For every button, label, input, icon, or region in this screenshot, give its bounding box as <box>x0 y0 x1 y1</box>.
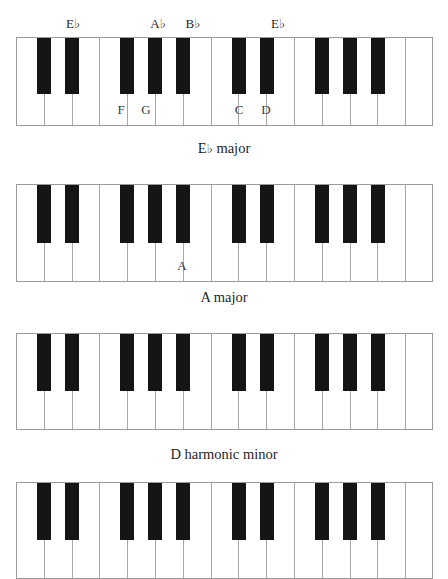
black-key[interactable] <box>315 185 329 243</box>
figure-d-harmonic-minor: D harmonic minor <box>0 333 448 468</box>
black-key[interactable] <box>37 38 51 94</box>
white-key-label-a: A <box>177 259 186 272</box>
black-key[interactable] <box>120 483 134 540</box>
piano-keyboard-eb-major[interactable] <box>16 37 433 126</box>
black-key[interactable] <box>120 334 134 391</box>
accidental-label-bb: B♭ <box>186 17 201 30</box>
black-key[interactable] <box>37 334 51 391</box>
figure-a-major: A A major <box>0 184 448 314</box>
black-key[interactable] <box>232 38 246 94</box>
black-key[interactable] <box>176 185 190 243</box>
black-key[interactable] <box>65 483 79 540</box>
black-key[interactable] <box>148 185 162 243</box>
accidental-label-eb-2: E♭ <box>271 17 285 30</box>
figure-fourth-partial <box>0 482 448 532</box>
black-key[interactable] <box>65 185 79 243</box>
white-key-label-d: D <box>261 103 270 116</box>
white-key-label-c: C <box>235 103 244 116</box>
black-key[interactable] <box>37 483 51 540</box>
white-key[interactable] <box>406 38 433 125</box>
black-key[interactable] <box>65 334 79 391</box>
black-key[interactable] <box>343 483 357 540</box>
white-key[interactable] <box>406 334 433 429</box>
black-key[interactable] <box>232 185 246 243</box>
black-key[interactable] <box>315 38 329 94</box>
black-key[interactable] <box>260 483 274 540</box>
black-key[interactable] <box>371 185 385 243</box>
black-key[interactable] <box>148 483 162 540</box>
black-key[interactable] <box>232 334 246 391</box>
black-key[interactable] <box>37 185 51 243</box>
black-key[interactable] <box>260 334 274 391</box>
figure-eb-major: E♭ A♭ B♭ E♭ <box>0 0 448 165</box>
white-key[interactable] <box>406 185 433 281</box>
accidental-letter: E <box>271 16 279 31</box>
accidental-letter: A <box>150 16 159 31</box>
black-key[interactable] <box>232 483 246 540</box>
accidental-label-ab: A♭ <box>150 17 166 30</box>
black-key[interactable] <box>371 483 385 540</box>
black-key[interactable] <box>343 38 357 94</box>
black-key[interactable] <box>148 38 162 94</box>
black-key[interactable] <box>120 38 134 94</box>
accidental-letter: E <box>66 16 74 31</box>
flat-symbol-icon: ♭ <box>279 16 285 31</box>
white-key[interactable] <box>406 483 433 578</box>
caption-letter: E <box>198 140 207 156</box>
flat-symbol-icon: ♭ <box>194 16 200 31</box>
figure-caption-eb-major: E♭ major <box>0 140 448 157</box>
black-key[interactable] <box>176 483 190 540</box>
caption-letter: D harmonic minor <box>170 446 277 462</box>
black-key[interactable] <box>148 334 162 391</box>
piano-keyboard-a-major[interactable] <box>16 184 433 282</box>
black-key[interactable] <box>371 334 385 391</box>
black-key[interactable] <box>65 38 79 94</box>
black-key[interactable] <box>315 334 329 391</box>
accidental-label-eb-1: E♭ <box>66 17 80 30</box>
black-key[interactable] <box>343 185 357 243</box>
piano-keyboard-partial[interactable] <box>16 482 433 579</box>
black-key[interactable] <box>371 38 385 94</box>
white-key-label-f: F <box>117 103 124 116</box>
piano-keyboard-d-harmonic-minor[interactable] <box>16 333 433 430</box>
flat-symbol-icon: ♭ <box>160 16 166 31</box>
black-key[interactable] <box>343 334 357 391</box>
caption-suffix: major <box>213 140 250 156</box>
black-key[interactable] <box>260 38 274 94</box>
black-key[interactable] <box>176 334 190 391</box>
black-key[interactable] <box>260 185 274 243</box>
flat-symbol-icon: ♭ <box>74 16 80 31</box>
black-key[interactable] <box>120 185 134 243</box>
black-key[interactable] <box>176 38 190 94</box>
black-key[interactable] <box>315 483 329 540</box>
figure-caption-d-harmonic-minor: D harmonic minor <box>0 446 448 463</box>
accidental-letter: B <box>186 16 195 31</box>
white-key-label-g: G <box>141 103 150 116</box>
caption-letter: A major <box>200 289 247 305</box>
figure-caption-a-major: A major <box>0 289 448 306</box>
